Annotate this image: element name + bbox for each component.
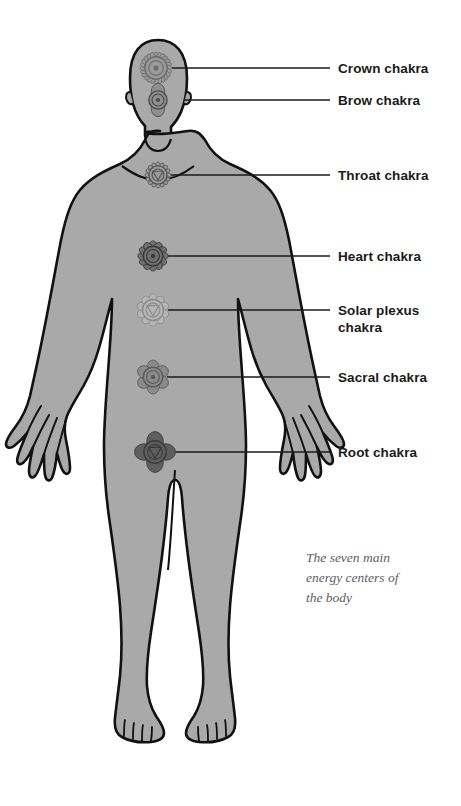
center-dot xyxy=(151,375,155,379)
center-dot xyxy=(153,65,158,70)
torso-limbs-shape xyxy=(6,131,344,742)
brow-chakra-two-petal-icon xyxy=(149,83,167,116)
center-dot xyxy=(156,98,160,102)
diagram-canvas xyxy=(0,0,461,806)
chakra-label-heart: Heart chakra xyxy=(338,248,421,265)
crown-chakra-lotus-icon xyxy=(140,52,172,84)
center-dot xyxy=(151,254,155,258)
chakra-label-root: Root chakra xyxy=(338,444,417,461)
chakra-label-brow: Brow chakra xyxy=(338,92,420,109)
chakra-label-solar-plexus: Solar plexus chakra xyxy=(338,302,419,336)
body-silhouette xyxy=(6,40,344,742)
figure-caption: The seven main energy centers of the bod… xyxy=(306,548,398,608)
chakra-label-sacral: Sacral chakra xyxy=(338,369,427,386)
chakra-label-throat: Throat chakra xyxy=(338,167,429,184)
throat-chakra-triangle-icon xyxy=(145,162,171,188)
chakra-label-crown: Crown chakra xyxy=(338,60,428,77)
chakra-diagram: Crown chakraBrow chakraThroat chakraHear… xyxy=(0,0,461,806)
